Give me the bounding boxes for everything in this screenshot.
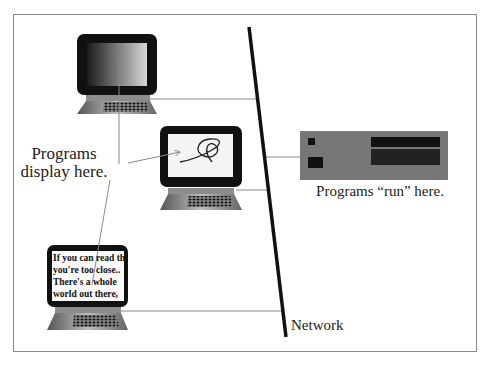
- network-line: [249, 27, 286, 337]
- screen-text-line: world out there,: [53, 288, 125, 300]
- server-indicator-large: [308, 157, 323, 168]
- clients-label-line: display here.: [18, 163, 110, 181]
- server-label: Programs “run” here.: [300, 184, 460, 200]
- server-drive-bay-top: [371, 137, 440, 147]
- keyboard-keys: [73, 315, 119, 327]
- screen-text-line: you're too close..: [53, 264, 125, 276]
- server-box: [300, 131, 448, 180]
- hinge: [55, 307, 121, 313]
- clients-label: Programs display here.: [18, 145, 110, 181]
- server-indicator-small: [308, 138, 315, 145]
- laptop-middle: [160, 126, 242, 210]
- hinge: [86, 95, 150, 101]
- laptop-top: [77, 34, 157, 114]
- keyboard-keys: [103, 102, 149, 112]
- bottom-screen-text: If you can read this, you're too close..…: [53, 252, 125, 300]
- clients-label-line: Programs: [18, 145, 110, 163]
- keyboard-keys: [187, 196, 233, 207]
- screen-gradient: [87, 43, 147, 86]
- server-drive-bay-bottom: [371, 149, 440, 165]
- screen-text-line: If you can read this,: [53, 252, 125, 264]
- network-label: Network: [291, 318, 344, 334]
- screen-text-line: There's a whole: [53, 276, 125, 288]
- hinge: [168, 188, 234, 194]
